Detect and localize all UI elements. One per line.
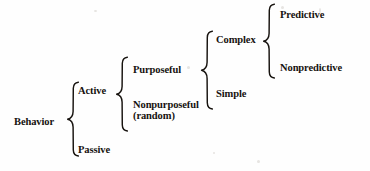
- node-nonpredictive: Nonpredictive: [280, 62, 342, 73]
- node-behavior-label: Behavior: [14, 116, 54, 127]
- behavior-taxonomy-diagram: Behavior Active Passive Purposeful Nonpu…: [0, 0, 370, 171]
- node-simple: Simple: [216, 88, 246, 99]
- node-nonpurposeful-qualifier: (random): [133, 110, 199, 121]
- node-complex-label: Complex: [216, 34, 256, 45]
- scan-speck: [257, 160, 260, 163]
- brace-purposeful: [200, 29, 214, 111]
- scan-speck: [187, 66, 190, 69]
- node-simple-label: Simple: [216, 88, 246, 99]
- brace-active: [115, 55, 129, 133]
- node-passive-label: Passive: [78, 144, 110, 155]
- node-nonpurposeful-label: Nonpurposeful: [133, 99, 199, 110]
- scan-speck: [94, 10, 97, 12]
- node-nonpredictive-label: Nonpredictive: [280, 62, 342, 73]
- brace-complex: [262, 2, 276, 80]
- node-nonpurposeful: Nonpurposeful (random): [133, 99, 199, 121]
- node-complex: Complex: [216, 34, 256, 45]
- node-active-label: Active: [78, 85, 106, 96]
- scan-speck: [213, 152, 215, 154]
- node-purposeful-label: Purposeful: [133, 64, 181, 75]
- node-predictive: Predictive: [280, 9, 324, 20]
- node-behavior: Behavior: [14, 116, 54, 127]
- node-predictive-label: Predictive: [280, 9, 324, 20]
- node-purposeful: Purposeful: [133, 64, 181, 75]
- node-passive: Passive: [78, 144, 110, 155]
- node-active: Active: [78, 85, 106, 96]
